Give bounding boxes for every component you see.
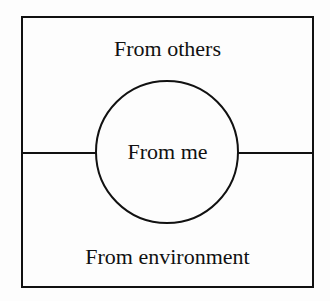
label-from-environment: From environment [0,244,330,270]
label-from-others: From others [0,36,330,62]
label-from-me: From me [0,139,330,165]
